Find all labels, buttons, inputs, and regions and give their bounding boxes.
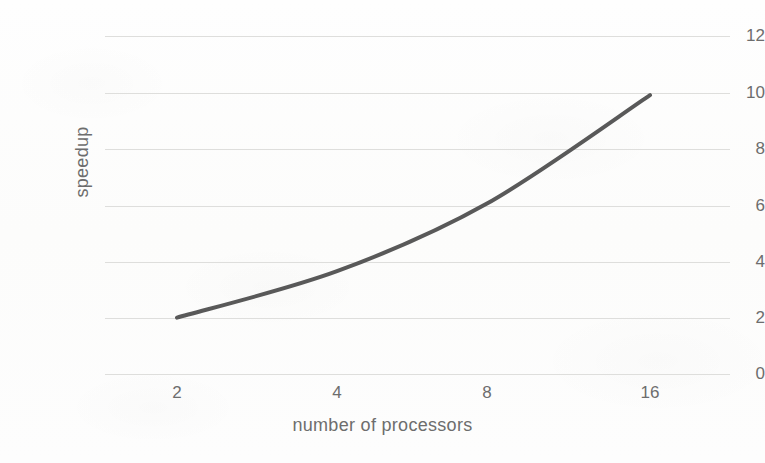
y-tick-label-6: 6 [725,197,765,214]
x-axis-title: number of processors [0,415,765,436]
y-tick-label-2: 2 [725,309,765,326]
y-axis-title: speedup [72,92,96,232]
gridline-2 [105,318,730,319]
gridline-8 [105,149,730,150]
y-tick-label-12: 12 [725,27,765,44]
x-tick-label-16: 16 [620,384,680,401]
y-tick-label-10: 10 [725,84,765,101]
gridline-6 [105,206,730,207]
y-tick-label-8: 8 [725,140,765,157]
y-tick-label-4: 4 [725,253,765,270]
x-tick-label-2: 2 [147,384,207,401]
gridline-4 [105,262,730,263]
y-tick-label-0: 0 [725,365,765,382]
plot-area [105,36,730,374]
x-tick-label-8: 8 [457,384,517,401]
gridline-10 [105,93,730,94]
speedup-line-chart: speedup 12 10 8 6 4 2 0 2 4 8 16 number … [0,0,765,463]
gridline-0 [105,374,730,375]
x-tick-label-4: 4 [307,384,367,401]
gridline-12 [105,36,730,37]
